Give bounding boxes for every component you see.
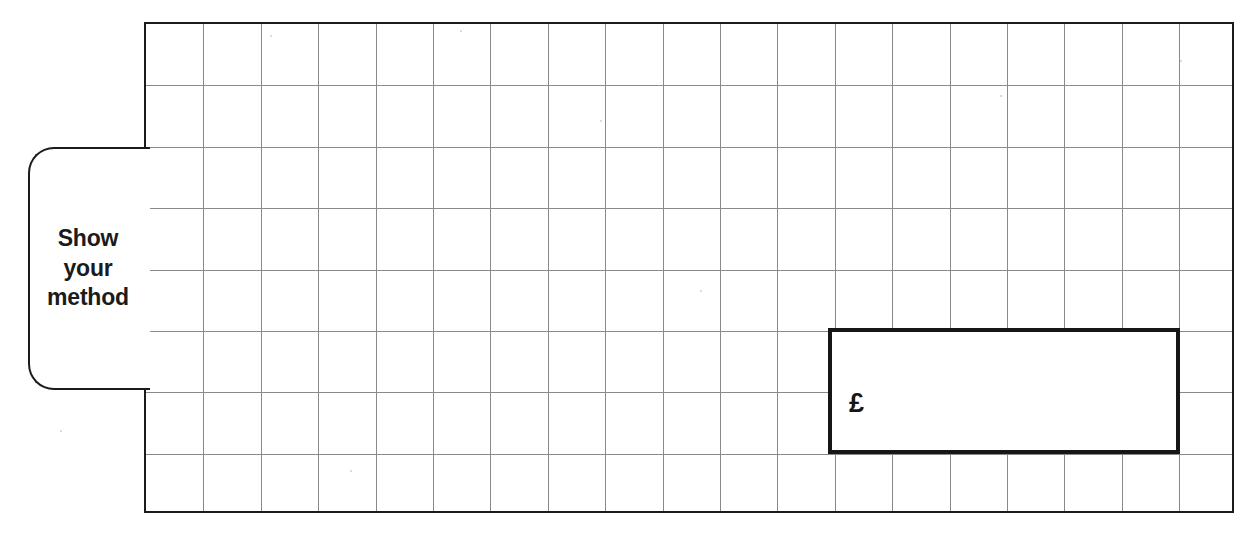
grid-row-line xyxy=(146,270,1232,271)
grid-column-line xyxy=(433,24,434,511)
grid-row-line xyxy=(146,85,1232,86)
grid-column-line xyxy=(318,24,319,511)
answer-value[interactable] xyxy=(832,332,1176,450)
grid-column-line xyxy=(605,24,606,511)
show-your-method-callout: Show your method xyxy=(28,147,150,390)
scan-speckle xyxy=(60,430,62,432)
grid-column-line xyxy=(663,24,664,511)
show-your-method-label: Show your method xyxy=(47,224,133,314)
answer-box[interactable]: £ xyxy=(828,328,1180,454)
grid-row-line xyxy=(146,147,1232,148)
grid-column-line xyxy=(548,24,549,511)
grid-column-line xyxy=(490,24,491,511)
grid-column-line xyxy=(720,24,721,511)
grid-row-line xyxy=(146,208,1232,209)
exam-answer-space: Show your method £ xyxy=(0,0,1256,534)
grid-column-line xyxy=(261,24,262,511)
grid-column-line xyxy=(777,24,778,511)
grid-column-line xyxy=(376,24,377,511)
grid-column-line xyxy=(203,24,204,511)
